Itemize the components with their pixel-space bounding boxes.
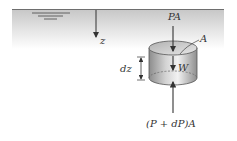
top-force-label: PA [167, 11, 181, 22]
fluid-element-diagram: z A PA W dz (P + dP)A [0, 0, 237, 141]
fluid-region [12, 9, 224, 49]
bottom-force-label: (P + dP)A [146, 118, 196, 129]
height-label: dz [120, 63, 132, 74]
weight-label: W [178, 62, 189, 73]
area-label: A [199, 33, 207, 44]
height-dimension [137, 57, 145, 80]
depth-axis-label: z [99, 35, 106, 46]
